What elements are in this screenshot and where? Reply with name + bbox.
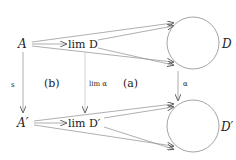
bottom-row: A′ lim D′ D′ (16, 100, 234, 152)
limDprime-arrow-upper (104, 107, 173, 118)
edge-label-alpha: α (183, 80, 188, 88)
node-A: A (17, 37, 27, 51)
cone-arrow-bottom-upper (34, 104, 173, 121)
node-limD: lim D (68, 38, 98, 51)
limDprime-arrow-lower (104, 127, 173, 149)
node-limDprime: lim D′ (68, 117, 101, 130)
top-row: A lim D D (17, 17, 232, 69)
node-Aprime: A′ (16, 116, 29, 130)
diagram-D-circle (167, 17, 219, 69)
edge-label-lim-alpha: lim α (89, 80, 107, 88)
commutative-diagram: A lim D D s lim α α (b) (a) A′ lim D′ D′ (0, 0, 236, 160)
limD-arrow-lower (98, 48, 173, 65)
cone-arrow-bottom-lower (34, 125, 173, 146)
region-label-b: (b) (44, 77, 60, 90)
edge-label-s: s (11, 81, 15, 89)
node-D: D (221, 37, 232, 51)
cone-arrow-top-lower (32, 46, 173, 62)
region-label-a: (a) (123, 77, 138, 90)
diagram-Dprime-circle (167, 100, 219, 152)
node-Dprime: D′ (220, 120, 234, 134)
